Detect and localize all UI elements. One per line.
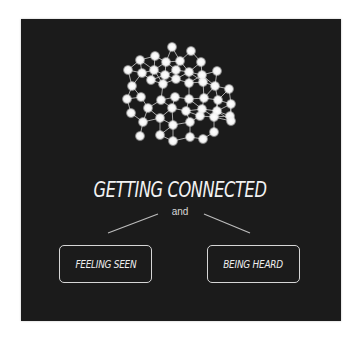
network-node: [168, 136, 178, 146]
network-node: [170, 92, 180, 102]
network-node: [158, 79, 168, 89]
network-node: [127, 81, 137, 91]
being-heard-box: BEING HEARD: [207, 245, 300, 283]
network-node: [198, 77, 208, 87]
network-node: [213, 95, 223, 105]
network-node: [167, 42, 177, 52]
network-node: [146, 75, 156, 85]
network-node: [209, 127, 219, 137]
network-node: [168, 120, 178, 130]
network-node: [167, 103, 177, 113]
network-node: [198, 134, 208, 144]
network-node: [150, 51, 160, 61]
network-node: [143, 103, 153, 113]
network-node: [185, 117, 195, 127]
feeling-seen-box: FEELING SEEN: [59, 245, 152, 283]
network-node: [126, 108, 136, 118]
network-node: [210, 81, 220, 91]
network-node: [123, 65, 133, 75]
network-node: [155, 113, 165, 123]
network-node: [209, 112, 219, 122]
network-node: [155, 130, 165, 140]
network-node: [196, 57, 206, 67]
network-node: [226, 99, 236, 109]
network-node: [212, 66, 222, 76]
network-node: [156, 95, 166, 105]
network-node: [185, 132, 195, 142]
network-node: [195, 111, 205, 121]
network-node: [186, 46, 196, 56]
network-node: [122, 94, 132, 104]
network-node: [135, 55, 145, 65]
network-node: [149, 65, 159, 75]
network-node: [224, 84, 234, 94]
network-node: [137, 68, 147, 78]
network-node: [184, 94, 194, 104]
network-graph-icon: [0, 0, 360, 339]
network-node: [135, 131, 145, 141]
connector-text: and: [0, 206, 360, 217]
network-node: [181, 106, 191, 116]
network-node: [171, 74, 181, 84]
network-node: [160, 70, 170, 80]
network-node: [161, 57, 171, 67]
network-node: [171, 65, 181, 75]
network-node: [184, 78, 194, 88]
page-title: GETTING CONNECTED: [32, 177, 327, 202]
network-node: [136, 92, 146, 102]
network-node: [226, 116, 236, 126]
network-node: [184, 67, 194, 77]
network-node: [138, 117, 148, 127]
network-node: [175, 56, 185, 66]
being-heard-label: BEING HEARD: [224, 258, 284, 270]
feeling-seen-label: FEELING SEEN: [75, 258, 136, 270]
network-node: [199, 93, 209, 103]
